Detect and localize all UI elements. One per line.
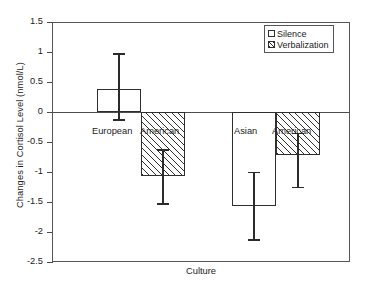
- legend-item-verbalization[interactable]: Verbalization: [268, 39, 329, 50]
- y-tick-label: -1: [17, 167, 43, 176]
- category-label: European: [92, 126, 132, 136]
- error-bar-stem: [297, 133, 298, 187]
- error-bar-cap-lower: [292, 187, 304, 188]
- cortisol-bar-chart: Changes in Cortisol Level (nmol/L) 1.510…: [0, 0, 367, 287]
- legend-label-silence: Silence: [277, 29, 307, 39]
- legend-swatch-verbalization-icon: [268, 41, 275, 48]
- category-label: American: [140, 126, 179, 136]
- category-label: American: [272, 126, 311, 136]
- y-tick-label: 1: [17, 47, 43, 56]
- error-bar-cap-upper: [113, 53, 125, 54]
- error-bar-cap-lower: [248, 239, 260, 240]
- error-bar-cap-lower: [157, 203, 169, 204]
- y-tick-label: -2.5: [17, 257, 43, 266]
- y-tick-label: 1.5: [17, 17, 43, 26]
- error-bar-stem: [162, 149, 163, 203]
- error-bar-stem: [253, 172, 254, 239]
- x-axis-title: Culture: [52, 266, 350, 276]
- error-bar-cap-upper: [248, 172, 260, 173]
- y-tick-label: 0: [17, 107, 43, 116]
- error-bar-stem: [118, 53, 119, 119]
- legend: Silence Verbalization: [264, 25, 334, 53]
- legend-item-silence[interactable]: Silence: [268, 28, 329, 39]
- y-tick-mark: [47, 262, 53, 263]
- y-tick-label: -2: [17, 227, 43, 236]
- y-tick-label: -1.5: [17, 197, 43, 206]
- error-bar-cap-lower: [113, 119, 125, 120]
- legend-swatch-silence-icon: [268, 30, 275, 37]
- error-bar-cap-upper: [157, 149, 169, 150]
- y-tick-label: -0.5: [17, 137, 43, 146]
- y-tick-label: 0.5: [17, 77, 43, 86]
- category-label: Asian: [234, 126, 257, 136]
- legend-label-verbalization: Verbalization: [277, 40, 329, 50]
